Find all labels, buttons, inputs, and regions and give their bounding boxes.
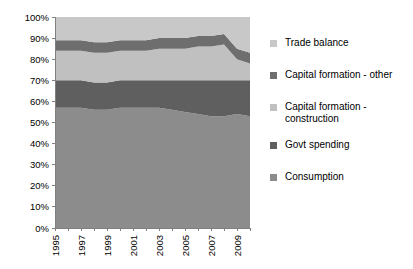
y-tick-label: 40% [30, 138, 50, 149]
y-tick-label: 30% [30, 159, 50, 170]
x-tick-label: 2003 [154, 235, 165, 256]
x-tick-label: 2001 [128, 235, 139, 256]
plot-area [55, 17, 250, 228]
legend-swatch [270, 40, 277, 47]
stacked-area-chart: 0%10%20%30%40%50%60%70%80%90%100% 199519… [0, 0, 413, 269]
y-axis: 0%10%20%30%40%50%60%70%80%90%100% [25, 12, 55, 234]
series-bands [55, 17, 250, 228]
legend-swatch [270, 174, 277, 181]
legend-label: Govt spending [285, 139, 350, 150]
legend-swatch [270, 104, 277, 111]
y-tick-label: 90% [30, 33, 50, 44]
x-tick-label: 2005 [180, 235, 191, 256]
chart-container: 0%10%20%30%40%50%60%70%80%90%100% 199519… [0, 0, 413, 269]
y-tick-label: 20% [30, 180, 50, 191]
y-tick-label: 80% [30, 54, 50, 65]
y-tick-label: 0% [35, 223, 49, 234]
y-tick-label: 50% [30, 117, 50, 128]
legend-item: Capital formation - other [270, 69, 393, 80]
legend-item: Consumption [270, 171, 344, 182]
x-tick-label: 2007 [206, 235, 217, 256]
legend-label-line2: construction [285, 113, 339, 124]
y-tick-label: 100% [25, 12, 50, 23]
legend-label: Capital formation - other [285, 69, 393, 80]
chart-legend: Trade balanceCapital formation - otherCa… [270, 37, 393, 182]
legend-item: Capital formation -construction [270, 101, 367, 124]
legend-label: Capital formation - [285, 101, 367, 112]
legend-swatch [270, 72, 277, 79]
y-tick-label: 60% [30, 96, 50, 107]
area-band-consumption [55, 108, 250, 228]
y-tick-label: 10% [30, 201, 50, 212]
legend-item: Govt spending [270, 139, 350, 150]
legend-label: Consumption [285, 171, 344, 182]
x-tick-label: 1999 [102, 235, 113, 256]
x-tick-label: 2009 [232, 235, 243, 256]
x-axis: 19951997199920012003200520072009 [50, 228, 251, 256]
x-tick-label: 1997 [76, 235, 87, 256]
legend-label: Trade balance [285, 37, 349, 48]
y-tick-label: 70% [30, 75, 50, 86]
legend-swatch [270, 142, 277, 149]
legend-item: Trade balance [270, 37, 349, 48]
x-tick-label: 1995 [50, 235, 61, 256]
